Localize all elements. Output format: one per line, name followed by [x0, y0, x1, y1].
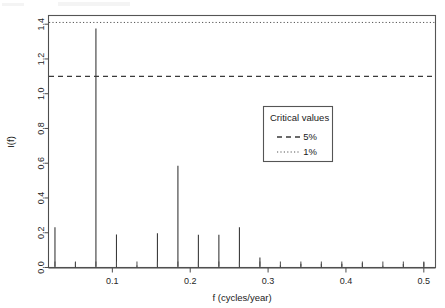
x-axis: 0.10.20.30.40.5 [49, 262, 436, 286]
x-axis-title: f (cycles/year) [212, 292, 271, 303]
legend: Critical values 5% 1% [264, 107, 333, 162]
spike-series [55, 29, 424, 268]
legend-label-5pct: 5% [303, 131, 317, 142]
y-axis-title: I(f) [5, 136, 16, 148]
y-axis: 0.00.20.40.60.81.01.21.4 [36, 18, 49, 274]
critical-value-lines [49, 22, 435, 76]
scan-artifact [58, 2, 130, 6]
x-tick-label: 0.1 [106, 276, 119, 286]
periodogram-chart: 0.00.20.40.60.81.01.21.4 0.10.20.30.40.5… [0, 0, 445, 308]
plot-frame [49, 16, 436, 268]
x-tick-label: 0.5 [418, 276, 431, 286]
x-tick-label: 0.2 [184, 276, 197, 286]
y-tick-label: 0.8 [36, 122, 46, 135]
x-tick-label: 0.3 [262, 276, 275, 286]
y-tick-label: 0.2 [36, 226, 46, 239]
scan-artifact [2, 3, 24, 6]
y-tick-label: 0.4 [36, 192, 46, 205]
y-tick-label: 0.6 [36, 157, 46, 170]
legend-title: Critical values [270, 112, 329, 123]
legend-label-1pct: 1% [303, 146, 317, 157]
y-tick-label: 1.0 [36, 87, 46, 100]
x-tick-label: 0.4 [340, 276, 353, 286]
y-tick-label: 0.0 [36, 261, 46, 274]
chart-canvas: 0.00.20.40.60.81.01.21.4 0.10.20.30.40.5… [0, 0, 445, 308]
y-tick-label: 1.2 [36, 53, 46, 66]
y-tick-label: 1.4 [36, 18, 46, 31]
